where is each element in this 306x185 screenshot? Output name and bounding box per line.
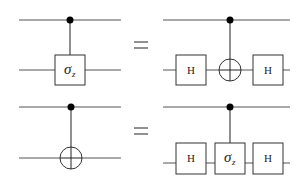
eq1-lhs-sigma-label: σ [64,61,72,77]
eq2-equals-sign [134,128,148,134]
eq2-lhs-circuit [19,104,121,170]
eq2-rhs-circuit: H σ z H [163,104,290,175]
eq1-rhs-control-dot-icon [227,17,234,24]
eq2-rhs-control-dot-icon [227,104,234,111]
eq2-rhs-sigma-subscript: z [231,157,236,167]
eq1-lhs-control-dot-icon [67,17,74,24]
eq2-rhs-h-label-1: H [187,152,195,164]
eq1-lhs-circuit: σ z [19,17,121,86]
circuit-diagram: σ z H H [0,0,306,185]
eq2-lhs-oplus-icon [60,147,82,169]
eq2-rhs-h-label-2: H [264,152,272,164]
eq2-rhs-sigma-label: σ [224,149,232,165]
eq1-rhs-h-label-1: H [187,64,195,76]
eq1-rhs-h-label-2: H [264,64,272,76]
eq1-rhs-circuit: H H [163,17,290,86]
eq1-lhs-sigma-subscript: z [71,69,76,79]
eq1-equals-sign [134,42,148,48]
eq1-rhs-oplus-icon [219,59,241,81]
eq2-lhs-control-dot-icon [68,104,75,111]
